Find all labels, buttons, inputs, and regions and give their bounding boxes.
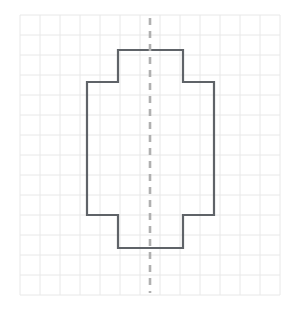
grid-figure-illustration	[0, 0, 293, 309]
worksheet-canvas	[0, 0, 293, 309]
